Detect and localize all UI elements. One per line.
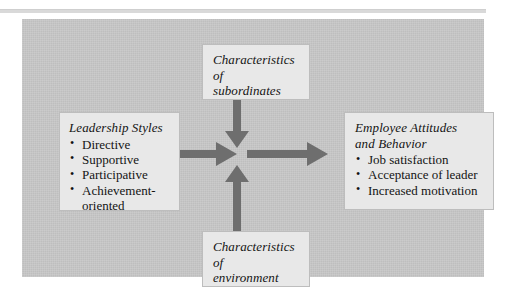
box-employee-attitudes-title: Employee Attitudes and Behavior xyxy=(355,120,493,151)
box-leadership-styles: Leadership Styles Directive Supportive P… xyxy=(59,112,180,211)
list-item: Achievement- oriented xyxy=(69,183,179,214)
box-leadership-styles-title: Leadership Styles xyxy=(69,120,179,136)
box-characteristics-of-subordinates: Characteristics of subordinates xyxy=(202,44,310,100)
list-item: Supportive xyxy=(69,152,179,167)
list-item: Increased motivation xyxy=(355,183,493,198)
list-item: Acceptance of leader xyxy=(355,167,493,182)
box-employee-attitudes: Employee Attitudes and Behavior Job sati… xyxy=(344,112,494,210)
box-characteristics-of-subordinates-title: Characteristics of subordinates xyxy=(213,52,309,99)
box-leadership-styles-list: Directive Supportive Participative Achie… xyxy=(69,137,179,214)
header-rule xyxy=(0,9,486,13)
diagram-panel: Leadership Styles Directive Supportive P… xyxy=(22,19,484,277)
box-employee-attitudes-list: Job satisfaction Acceptance of leader In… xyxy=(355,152,493,198)
box-characteristics-of-environment: Characteristics of environment xyxy=(202,231,310,287)
box-characteristics-of-environment-title: Characteristics of environment xyxy=(213,239,309,286)
list-item: Job satisfaction xyxy=(355,152,493,167)
arrow-center-to-outcomes xyxy=(247,139,329,169)
list-item: Directive xyxy=(69,137,179,152)
list-item: Participative xyxy=(69,167,179,182)
arrow-environment-to-center xyxy=(222,164,252,232)
